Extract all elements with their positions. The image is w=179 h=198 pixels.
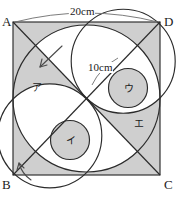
region-label-i: イ — [66, 136, 76, 146]
dimension-label-10cm: 10cm — [87, 62, 113, 73]
geometry-canvas — [0, 0, 179, 198]
region-label-u: ウ — [124, 84, 134, 94]
vertex-label-c: C — [164, 178, 173, 191]
vertex-label-d: D — [164, 15, 173, 28]
vertex-label-a: A — [2, 15, 11, 28]
vertex-label-b: B — [2, 178, 11, 191]
dimension-label-20cm: 20cm — [69, 6, 95, 17]
region-label-a: ア — [32, 83, 42, 93]
region-label-e: エ — [134, 119, 144, 129]
geometry-figure: A D B C 20cm 10cm ア イ ウ エ — [0, 0, 179, 198]
